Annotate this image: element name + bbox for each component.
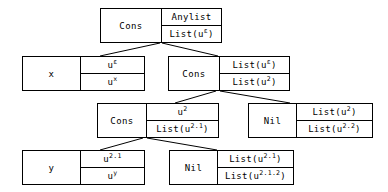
node-nil-bottom[interactable]: Nil List(u2.1) List(u2.1.2) [169,150,294,185]
node-third-cons[interactable]: Cons u2 List(u2.1) [97,103,219,138]
node-second-cons-type-bottom-label: List(u2) [232,77,276,87]
node-nil-right-types: List(u2) List(u2.2) [296,104,372,137]
superscript: x [113,75,117,83]
node-nil-bottom-types: List(u2.1) List(u2.1.2) [217,151,293,184]
node-third-cons-type-bottom-label: List(u2.1) [156,124,209,134]
node-root-cons-constructor: Cons [101,9,161,42]
node-root-cons-types: Anylist List(uε) [161,9,221,42]
node-nil-right-type-bottom: List(u2.2) [297,121,372,138]
edge-cons3-to-y [100,138,143,150]
node-third-cons-constructor: Cons [98,104,146,137]
node-second-cons-type-top-label: List(uε) [232,60,276,70]
node-nil-right[interactable]: Nil List(u2) List(u2.2) [248,103,373,138]
node-var-y-constructor-label: y [49,163,55,173]
node-var-x-constructor-label: x [49,69,55,79]
node-nil-bottom-type-top: List(u2.1) [218,151,293,168]
node-third-cons-types: u2 List(u2.1) [146,104,218,137]
node-third-cons-type-top: u2 [147,104,218,121]
node-var-y-type-top-label: u2.1 [103,154,121,164]
node-var-x-type-bottom-label: ux [108,77,118,87]
node-nil-right-constructor: Nil [249,104,296,137]
node-second-cons-type-bottom: List(u2) [220,74,289,91]
node-second-cons[interactable]: Cons List(uε) List(u2) [168,56,290,91]
node-var-x-type-top-label: uε [108,60,118,70]
node-root-cons-type-top-label: Anylist [171,12,211,22]
node-var-x-type-top: uε [81,57,144,74]
superscript: 2.2 [342,122,355,130]
node-var-y-type-top: u2.1 [81,151,144,168]
superscript: 2.1 [190,122,203,130]
node-nil-bottom-type-bottom: List(u2.1.2) [218,168,293,185]
node-nil-bottom-constructor-label: Nil [185,163,202,173]
node-nil-bottom-constructor: Nil [170,151,217,184]
edge-root-to-x [100,43,160,56]
node-var-y-type-bottom: uy [81,168,144,185]
node-root-cons-type-top: Anylist [162,9,221,26]
node-second-cons-constructor-label: Cons [182,69,205,79]
node-second-cons-types: List(uε) List(u2) [219,57,289,90]
superscript: 2 [183,105,187,113]
edge-root-to-cons2 [162,43,218,56]
node-var-y-type-bottom-label: uy [108,171,118,181]
diagram-canvas: Cons Anylist List(uε) x uε ux Cons [0,0,388,192]
edge-cons2-to-cons3 [175,91,216,103]
node-second-cons-constructor: Cons [169,57,219,90]
edge-cons3-to-nil2 [147,138,217,150]
superscript: 2.1.2 [259,169,280,177]
node-third-cons-constructor-label: Cons [110,116,133,126]
node-var-y-constructor: y [23,151,80,184]
superscript: ε [113,58,117,66]
node-nil-right-type-bottom-label: List(u2.2) [308,124,361,134]
node-third-cons-type-bottom: List(u2.1) [147,121,218,138]
node-third-cons-type-top-label: u2 [178,107,188,117]
node-nil-right-constructor-label: Nil [264,116,281,126]
node-root-cons-type-bottom-label: List(uε) [169,29,213,39]
node-root-cons[interactable]: Cons Anylist List(uε) [100,8,222,43]
node-nil-right-type-top-label: List(u2) [312,107,356,117]
edge-cons2-to-nil [220,91,290,103]
node-root-cons-type-bottom: List(uε) [162,26,221,43]
superscript: y [113,169,117,177]
node-root-cons-constructor-label: Cons [119,21,142,31]
node-var-x-constructor: x [23,57,80,90]
node-var-x-types: uε ux [80,57,144,90]
node-second-cons-type-top: List(uε) [220,57,289,74]
node-nil-right-type-top: List(u2) [297,104,372,121]
node-nil-bottom-type-bottom-label: List(u2.1.2) [225,171,286,181]
superscript: 2.1 [109,152,122,160]
superscript: 2.1 [263,152,276,160]
node-var-x[interactable]: x uε ux [22,56,145,91]
node-var-x-type-bottom: ux [81,74,144,91]
node-nil-bottom-type-top-label: List(u2.1) [229,154,282,164]
node-var-y-types: u2.1 uy [80,151,144,184]
node-var-y[interactable]: y u2.1 uy [22,150,145,185]
